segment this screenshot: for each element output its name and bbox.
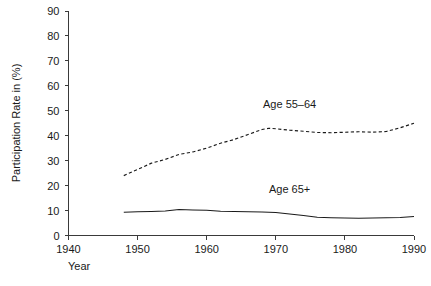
series-annotation-1: Age 65+ [269,183,310,195]
y-tick-label-60: 60 [47,80,59,92]
y-tick-label-0: 0 [53,230,59,242]
series-line-age-65-plus [124,210,414,219]
x-axis-group: 194019501960197019801990 Year [56,236,426,273]
chart-container: 0102030405060708090 Participation Rate i… [0,0,431,286]
y-tick-label-40: 40 [47,130,59,142]
x-tick-label-1970: 1970 [264,243,288,255]
y-tick-label-50: 50 [47,105,59,117]
y-axis-ticks [65,11,69,236]
y-tick-label-90: 90 [47,5,59,17]
x-tick-label-1990: 1990 [402,243,426,255]
series-line-age-55-64 [124,123,414,175]
y-tick-label-20: 20 [47,180,59,192]
x-tick-label-1980: 1980 [333,243,357,255]
x-tick-label-1950: 1950 [125,243,149,255]
participation-rate-line-chart: 0102030405060708090 Participation Rate i… [0,0,431,286]
x-tick-label-1960: 1960 [194,243,218,255]
series-annotations: Age 55–64Age 65+ [263,98,316,195]
series-annotation-0: Age 55–64 [263,98,316,110]
y-tick-label-10: 10 [47,205,59,217]
y-tick-label-30: 30 [47,155,59,167]
plot-area [124,123,414,218]
y-tick-label-80: 80 [47,30,59,42]
x-axis-ticks [69,236,415,240]
y-axis-title: Participation Rate in (%) [10,64,22,183]
x-axis-tick-labels: 194019501960197019801990 [56,243,426,255]
y-axis-tick-labels: 0102030405060708090 [47,5,59,242]
x-tick-label-1940: 1940 [56,243,80,255]
y-tick-label-70: 70 [47,55,59,67]
x-axis-title: Year [68,260,91,272]
y-axis-group: 0102030405060708090 Participation Rate i… [10,5,69,242]
